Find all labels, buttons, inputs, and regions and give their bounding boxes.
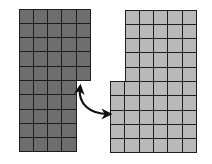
- curved-double-arrow-icon: [0, 0, 212, 164]
